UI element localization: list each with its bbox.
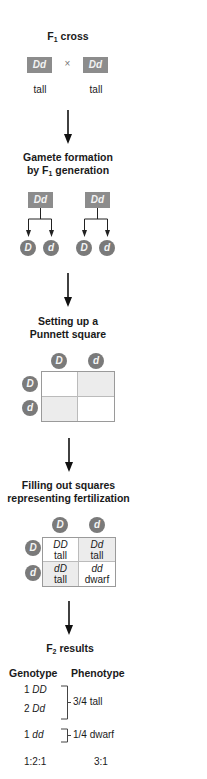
- genotype-header: Genotype: [9, 667, 65, 680]
- cell-dd: dd dwarf: [79, 562, 115, 586]
- cell-DD: DD tall: [43, 538, 79, 562]
- f2-results-title: F2 results: [20, 642, 120, 658]
- fertilization-title: Filling out squares representing fertili…: [0, 479, 137, 505]
- punnett-setup-title: Setting up a Punnett square: [0, 315, 136, 341]
- cell-Dd: [78, 372, 114, 397]
- genotype-row-DD: 1 DD: [24, 684, 47, 695]
- parent1-phenotype: tall: [25, 84, 55, 95]
- gamete-D-2: D: [76, 240, 92, 256]
- genotype-row-Dd: 2 Dd: [24, 703, 45, 714]
- phenotype-tall: 3/4 tall: [73, 696, 102, 707]
- parent1-genotype-box: Dd: [27, 57, 52, 73]
- f1-cross-title: F1 cross: [18, 30, 118, 46]
- gamete-d-1: d: [43, 240, 59, 256]
- phenotype-ratio: 3:1: [94, 756, 108, 767]
- gamete-d-2: d: [99, 240, 115, 256]
- row-header-d: d: [22, 400, 38, 416]
- parent2-genotype-box: Dd: [83, 57, 108, 73]
- genotype-ratio: 1:2:1: [24, 756, 46, 767]
- down-arrow-icon: [62, 110, 74, 144]
- gamete-formation-title: Gamete formation by F1 generation: [0, 151, 136, 180]
- parent2-phenotype: tall: [81, 84, 111, 95]
- row-header-D: D: [22, 376, 38, 392]
- down-arrow-icon: [62, 273, 74, 307]
- cell-Dd: Dd tall: [79, 538, 115, 562]
- col-header-D: D: [51, 353, 67, 369]
- f1-parent2-box: Dd: [85, 192, 110, 208]
- cross-symbol: ×: [60, 58, 75, 69]
- row-header-D: D: [25, 540, 41, 556]
- phenotype-dwarf: 1/4 dwarf: [73, 729, 114, 740]
- empty-punnett-square: [41, 371, 115, 422]
- col-header-D: D: [52, 517, 68, 533]
- col-header-d: d: [88, 353, 104, 369]
- gamete-branch-lines: [0, 208, 140, 242]
- row-header-d: d: [25, 565, 41, 581]
- cell-dD: [42, 397, 78, 421]
- gamete-D-1: D: [20, 240, 36, 256]
- filled-punnett-square: DD tall Dd tall dD tall dd dwarf: [42, 537, 116, 587]
- cell-dD: dD tall: [43, 562, 79, 586]
- phenotype-header: Phenotype: [71, 667, 131, 680]
- col-header-d: d: [89, 517, 105, 533]
- cell-dd: [78, 397, 114, 421]
- cell-DD: [42, 372, 78, 397]
- genotype-row-dd: 1 dd: [24, 729, 43, 740]
- down-arrow-icon: [63, 438, 75, 472]
- f1-parent1-box: Dd: [28, 192, 53, 208]
- down-arrow-icon: [63, 601, 75, 635]
